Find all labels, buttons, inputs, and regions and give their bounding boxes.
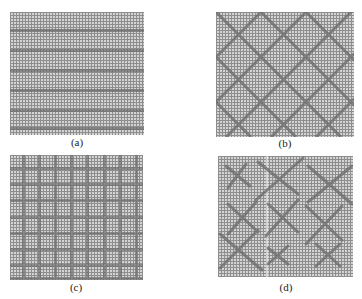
panel-a — [10, 12, 144, 135]
panel-b — [216, 12, 354, 137]
panel-a-caption: (a) — [57, 136, 97, 148]
square-lattice-mesh-image — [10, 155, 143, 280]
panel-c-caption: (c) — [56, 281, 96, 293]
panel-c — [10, 155, 143, 280]
diamond-lattice-mesh-image — [216, 12, 354, 137]
panel-b-caption: (b) — [265, 137, 305, 149]
panel-d — [218, 156, 353, 277]
panel-d-caption: (d) — [266, 281, 306, 293]
scattered-crosses-mesh-image — [218, 156, 353, 277]
horizontal-stripe-mesh-image — [10, 12, 144, 135]
